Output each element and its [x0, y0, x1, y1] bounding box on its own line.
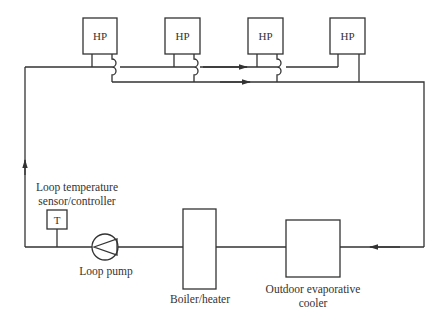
heat-pump-1-label: HP: [83, 29, 117, 43]
temperature-sensor-symbol: T: [47, 213, 67, 227]
loop-pump-label: Loop pump: [70, 264, 142, 278]
cooler-label-line1: Outdoor evaporative: [263, 282, 363, 296]
heat-pump-4-label: HP: [330, 29, 365, 43]
heat-pump-2-label: HP: [165, 29, 200, 43]
boiler-heater-label: Boiler/heater: [160, 292, 240, 306]
sensor-label-line2: sensor/controller: [22, 194, 132, 208]
cooler-label-line2: cooler: [263, 296, 363, 310]
boiler-heater-box: [183, 209, 216, 289]
loop-schematic: [0, 0, 446, 317]
heat-pump-3-label: HP: [248, 29, 283, 43]
sensor-label-line1: Loop temperature: [22, 180, 132, 194]
return-header-line: [112, 82, 424, 247]
evaporative-cooler-box: [286, 220, 340, 277]
